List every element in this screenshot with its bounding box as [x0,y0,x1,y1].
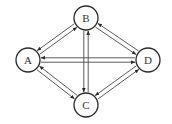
edge-d-to-c [95,66,136,96]
edge-c-to-a [40,66,77,95]
edges-layer [37,23,139,99]
edge-b-to-d [96,27,136,54]
edge-b-to-a [37,24,74,51]
node-b: B [74,6,98,30]
node-d: D [136,48,160,72]
edge-a-to-b [40,27,77,54]
edge-a-to-c [37,70,74,99]
node-label: C [82,99,89,111]
edge-d-to-b [98,23,138,50]
edge-c-to-d [98,69,139,99]
node-a: A [16,48,40,72]
directed-graph-diagram: ABCD [0,0,172,124]
node-c: C [74,93,98,117]
node-label: D [144,54,152,66]
node-label: B [82,12,89,24]
node-label: A [24,54,32,66]
